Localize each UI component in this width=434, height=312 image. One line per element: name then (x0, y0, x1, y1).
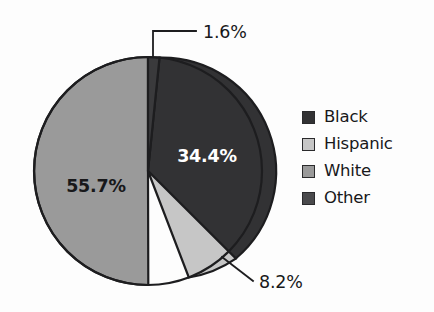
legend-label-other: Other (324, 190, 370, 207)
legend-swatch-white-icon (302, 165, 315, 178)
legend-swatch-other-icon (302, 192, 315, 205)
pie-slice-white[interactable] (34, 57, 148, 285)
legend-label-hispanic: Hispanic (324, 136, 393, 153)
legend-item-black[interactable]: Black (302, 104, 432, 131)
pie-chart-figure: 1.6% 8.2% 34.4% 55.7% Black Hispanic Whi… (0, 0, 434, 312)
callout-label-other: 1.6% (203, 22, 247, 42)
callout-leader-hispanic (222, 257, 253, 281)
legend-label-white: White (324, 163, 371, 180)
callout-leader-other (153, 31, 196, 57)
slice-value-black: 34.4% (177, 146, 237, 166)
legend-swatch-hispanic-icon (302, 138, 315, 151)
legend-item-other[interactable]: Other (302, 185, 432, 212)
legend-label-black: Black (324, 109, 368, 126)
slice-value-white: 55.7% (66, 176, 126, 196)
legend-item-hispanic[interactable]: Hispanic (302, 131, 432, 158)
legend-swatch-black-icon (302, 111, 315, 124)
chart-legend: Black Hispanic White Other (302, 104, 432, 212)
legend-item-white[interactable]: White (302, 158, 432, 185)
callout-label-hispanic: 8.2% (259, 272, 303, 292)
